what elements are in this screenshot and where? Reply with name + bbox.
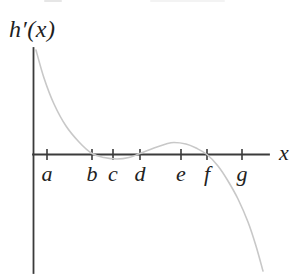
tick-label-d: d [135,161,147,186]
tick-label-b: b [87,161,98,186]
tick-label-g: g [237,161,248,186]
tick-label-e: e [176,161,186,186]
tick-label-f: f [204,161,213,186]
plot-canvas: abcdefg [0,0,304,280]
tick-label-a: a [42,161,53,186]
tick-label-c: c [108,161,118,186]
derivative-curve [36,50,263,271]
derivative-graph-figure: h′(x) x abcdefg [0,0,304,280]
